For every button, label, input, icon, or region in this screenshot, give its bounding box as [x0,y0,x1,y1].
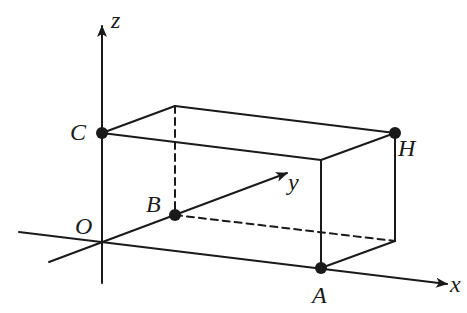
axis-label-y: y [288,170,299,194]
point-a [315,262,327,274]
edge-topfront-h [321,133,395,160]
coordinate-box-diagram [0,0,467,313]
point-label-a: A [312,283,327,307]
point-label-h: H [398,136,415,160]
edge-topback-h [175,106,395,133]
edge-c-topback [102,106,175,133]
point-c [96,127,108,139]
point-label-c: C [70,120,86,144]
hidden-edge-b-backright [175,215,395,241]
point-label-o: O [75,214,92,238]
point-b [169,209,181,221]
axis-label-x: x [450,272,461,296]
axis-label-z: z [111,8,120,32]
edge-a-backright [321,241,395,268]
edge-c-topfront [102,133,321,160]
point-label-b: B [146,192,161,216]
